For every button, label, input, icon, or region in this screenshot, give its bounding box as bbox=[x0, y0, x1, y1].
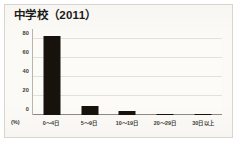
bar bbox=[195, 114, 212, 115]
bar bbox=[43, 36, 60, 115]
chart-title: 中学校（2011） bbox=[14, 10, 97, 22]
bar-slot bbox=[33, 29, 71, 115]
bar-slot bbox=[184, 29, 222, 115]
bar bbox=[119, 111, 136, 115]
y-tick-label: 80 bbox=[22, 30, 29, 36]
bar-slot bbox=[71, 29, 109, 115]
y-axis-unit-label: (%) bbox=[11, 119, 20, 125]
figure-inner: 中学校（2011） (%) 806040200 0〜4日5〜9日10〜19日20… bbox=[5, 5, 232, 137]
x-axis-ticks: 0〜4日5〜9日10〜19日20〜29日30日以上 bbox=[32, 117, 222, 131]
x-tick-label: 30日以上 bbox=[192, 119, 214, 127]
bar-slot bbox=[146, 29, 184, 115]
y-tick-label: 60 bbox=[22, 49, 29, 55]
bar-slot bbox=[109, 29, 147, 115]
x-tick-label: 20〜29日 bbox=[154, 119, 177, 127]
x-tick-label: 5〜9日 bbox=[81, 119, 97, 127]
y-tick-label: 40 bbox=[22, 68, 29, 74]
bar-series bbox=[33, 29, 222, 115]
bar bbox=[157, 114, 174, 115]
chart-figure: 中学校（2011） (%) 806040200 0〜4日5〜9日10〜19日20… bbox=[0, 0, 238, 143]
x-tick-label: 10〜19日 bbox=[116, 119, 139, 127]
plot-area: 806040200 bbox=[32, 29, 222, 115]
y-tick-label: 20 bbox=[22, 87, 29, 93]
y-tick-label: 0 bbox=[26, 106, 29, 112]
x-tick-label: 0〜4日 bbox=[43, 119, 59, 127]
bar bbox=[81, 106, 98, 115]
figure-frame: 中学校（2011） (%) 806040200 0〜4日5〜9日10〜19日20… bbox=[4, 4, 233, 138]
